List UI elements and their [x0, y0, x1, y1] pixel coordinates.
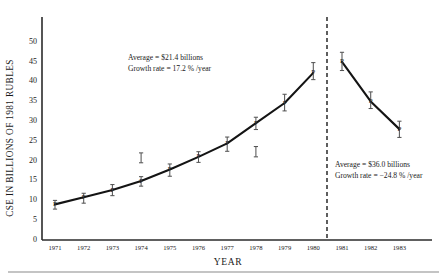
point-marker-p: P	[168, 165, 172, 173]
x-tick-label: 1983	[393, 244, 407, 251]
series-path	[55, 73, 313, 204]
point-marker-p: P	[369, 97, 373, 105]
data-point: P	[311, 63, 315, 80]
x-tick-label: 1973	[106, 244, 120, 251]
floating-error-marker	[254, 147, 258, 157]
point-marker-p: P	[311, 68, 315, 76]
point-marker-p: P	[139, 177, 143, 185]
series-declining-segment: PPP	[340, 52, 402, 137]
point-marker-p: P	[53, 200, 57, 208]
x-tick-label: 1979	[278, 244, 292, 251]
right-annotation: Average = $36.0 billions Growth rate = −…	[335, 160, 423, 180]
data-point: P	[110, 185, 114, 196]
x-tick-label: 1980	[307, 244, 321, 251]
x-tick-label: 1974	[135, 244, 149, 251]
right-annotation-line1: Average = $36.0 billions	[335, 160, 410, 169]
point-marker-p: P	[283, 99, 287, 107]
point-marker-p: P	[225, 139, 229, 147]
x-tick-label: 1978	[249, 244, 263, 251]
chart-figure: CSE IN BILLIONS OF 1981 RUBLES 0 5 10 15…	[0, 0, 447, 276]
point-marker-p: P	[110, 186, 114, 194]
data-point: P	[369, 92, 373, 109]
series-rising-segment: PPPPPPPPPP	[53, 63, 316, 210]
x-tick-label: 1972	[77, 244, 90, 251]
data-point: P	[340, 52, 344, 70]
y-tick-label: 35	[29, 96, 37, 105]
data-point: P	[82, 193, 86, 203]
y-tick-label: 45	[29, 57, 37, 66]
point-marker-p: P	[197, 152, 201, 160]
y-tick-label: 0	[33, 235, 37, 244]
right-annotation-line2: Growth rate = −24.8 % /year	[335, 171, 423, 180]
x-tick-label: 1975	[163, 244, 177, 251]
data-point: P	[254, 117, 258, 129]
y-tick-label: 10	[29, 195, 37, 204]
x-axis-ticks: 1971 1972 1973 1974 1975 1976 1977 1978 …	[48, 244, 406, 251]
data-point: P	[225, 137, 229, 151]
y-axis-ticks: 0 5 10 15 20 25 30 35 40 45 50	[29, 37, 37, 244]
x-tick-label: 1981	[335, 244, 348, 251]
left-annotation: Average = $21.4 billions Growth rate = 1…	[128, 53, 212, 73]
y-tick-label: 20	[29, 156, 37, 165]
data-point: P	[139, 177, 143, 187]
x-axis-title: YEAR	[214, 257, 242, 267]
y-tick-label: 40	[29, 76, 37, 85]
y-tick-label: 30	[29, 116, 37, 125]
line-chart-svg: CSE IN BILLIONS OF 1981 RUBLES 0 5 10 15…	[0, 0, 447, 276]
point-marker-p: P	[340, 57, 344, 65]
data-series-layer: PPPPPPPPPPPPP	[53, 52, 402, 209]
floating-error-marker	[139, 153, 143, 163]
left-annotation-line2: Growth rate = 17.2 % /year	[128, 64, 212, 73]
x-tick-label: 1976	[192, 244, 206, 251]
data-point: P	[196, 152, 200, 163]
y-tick-label: 50	[29, 37, 37, 46]
point-marker-p: P	[82, 193, 86, 201]
data-point: P	[53, 200, 57, 209]
x-tick-label: 1977	[221, 244, 235, 251]
x-tick-label: 1982	[364, 244, 377, 251]
y-tick-label: 25	[29, 136, 37, 145]
data-point: P	[397, 121, 401, 137]
data-point: P	[168, 164, 172, 176]
left-annotation-line1: Average = $21.4 billions	[128, 53, 203, 62]
point-marker-p: P	[254, 119, 258, 127]
y-tick-label: 15	[29, 175, 37, 184]
data-point: P	[283, 94, 287, 111]
x-tick-label: 1971	[48, 244, 61, 251]
point-marker-p: P	[397, 125, 401, 133]
y-axis-title: CSE IN BILLIONS OF 1981 RUBLES	[5, 59, 15, 216]
y-tick-label: 5	[33, 215, 37, 224]
